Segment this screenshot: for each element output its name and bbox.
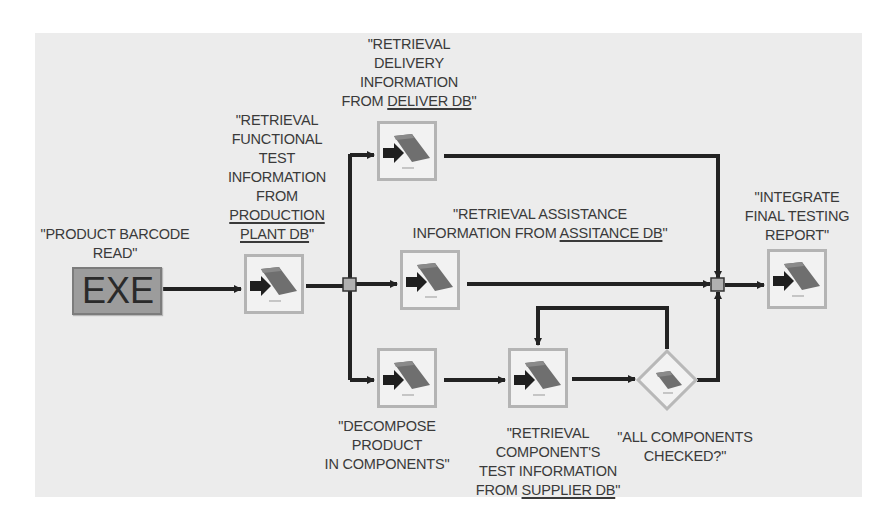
supplier-caption: "RETRIEVAL COMPONENT'S TEST INFORMATION … bbox=[476, 424, 620, 500]
caption-line: IN COMPONENTS" bbox=[325, 455, 450, 474]
caption-prefix: FROM bbox=[476, 482, 522, 498]
decompose-node[interactable] bbox=[377, 348, 437, 408]
caption-quote: " bbox=[309, 226, 314, 242]
caption-line: "RETRIEVAL bbox=[476, 424, 620, 443]
start-caption: "PRODUCT BARCODE READ" bbox=[40, 225, 189, 263]
start-caption-line: READ" bbox=[40, 244, 189, 263]
caption-line: "ALL COMPONENTS bbox=[617, 428, 752, 447]
db-name-underlined: DELIVER DB bbox=[387, 93, 471, 109]
caption-line: INFORMATION bbox=[228, 168, 326, 187]
caption-line: INFORMATION bbox=[342, 73, 477, 92]
database-task-icon bbox=[770, 252, 824, 306]
caption-prefix: INFORMATION FROM bbox=[413, 225, 560, 241]
caption-quote: " bbox=[472, 93, 477, 109]
assistance-db-node[interactable] bbox=[400, 250, 460, 310]
caption-line: PRODUCT bbox=[325, 436, 450, 455]
assistance-caption: "RETRIEVAL ASSISTANCE INFORMATION FROM A… bbox=[413, 205, 668, 243]
db-name-underlined: ASSITANCE DB bbox=[560, 225, 663, 241]
caption-quote: " bbox=[615, 482, 620, 498]
caption-quote: " bbox=[662, 225, 667, 241]
database-task-icon bbox=[247, 257, 301, 311]
database-task-icon bbox=[380, 124, 434, 178]
delivery-db-node[interactable] bbox=[377, 121, 437, 181]
integrate-report-node[interactable] bbox=[767, 249, 827, 309]
exe-start-node[interactable]: EXE bbox=[72, 267, 162, 315]
production-caption: "RETRIEVAL FUNCTIONAL TEST INFORMATION F… bbox=[228, 111, 326, 244]
caption-line: "RETRIEVAL bbox=[342, 35, 477, 54]
check-caption: "ALL COMPONENTS CHECKED?" bbox=[617, 428, 752, 466]
database-task-icon bbox=[511, 351, 565, 405]
production-db-node[interactable] bbox=[244, 254, 304, 314]
supplier-db-node[interactable] bbox=[508, 348, 568, 408]
integrate-caption: "INTEGRATE FINAL TESTING REPORT" bbox=[745, 188, 850, 245]
caption-prefix: FROM bbox=[342, 93, 388, 109]
caption-line: "RETRIEVAL ASSISTANCE bbox=[413, 205, 668, 224]
db-name-underlined: PLANT DB bbox=[240, 226, 309, 242]
caption-line: FUNCTIONAL bbox=[228, 130, 326, 149]
decompose-caption: "DECOMPOSE PRODUCT IN COMPONENTS" bbox=[325, 417, 450, 474]
caption-line: CHECKED?" bbox=[617, 447, 752, 466]
caption-line: REPORT" bbox=[745, 226, 850, 245]
start-caption-line: "PRODUCT BARCODE bbox=[40, 225, 189, 244]
edge-check-loopback bbox=[538, 308, 667, 349]
caption-line: FINAL TESTING bbox=[745, 207, 850, 226]
caption-line: FROM bbox=[228, 187, 326, 206]
decision-diamond-icon bbox=[636, 349, 698, 411]
split-junction bbox=[343, 278, 356, 291]
delivery-caption: "RETRIEVAL DELIVERY INFORMATION FROM DEL… bbox=[342, 35, 477, 111]
caption-line: "INTEGRATE bbox=[745, 188, 850, 207]
edge-check-merge bbox=[697, 292, 718, 380]
db-name-underlined: PRODUCTION bbox=[229, 207, 324, 223]
merge-junction bbox=[711, 278, 724, 291]
database-task-icon bbox=[380, 351, 434, 405]
caption-line: TEST INFORMATION bbox=[476, 462, 620, 481]
caption-line: COMPONENT'S bbox=[476, 443, 620, 462]
all-components-checked-decision[interactable] bbox=[636, 349, 698, 411]
db-name-underlined: SUPPLIER DB bbox=[522, 482, 616, 498]
caption-line: TEST bbox=[228, 149, 326, 168]
caption-line: DELIVERY bbox=[342, 54, 477, 73]
caption-line: "RETRIEVAL bbox=[228, 111, 326, 130]
database-task-icon bbox=[403, 253, 457, 307]
caption-line: "DECOMPOSE bbox=[325, 417, 450, 436]
